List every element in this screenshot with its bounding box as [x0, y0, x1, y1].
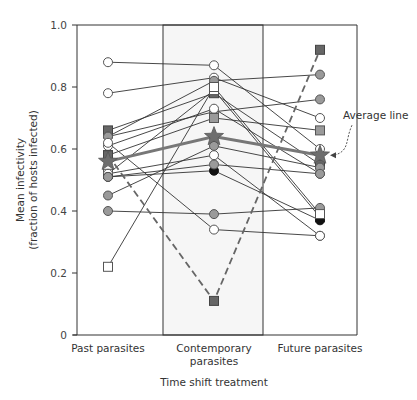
y-axis-title-line: Mean infectivity	[14, 138, 26, 222]
x-axis-category-labels: Past parasitesContemporaryparasitesFutur…	[71, 342, 362, 367]
grey-square-marker	[210, 114, 219, 123]
open-circle-marker	[316, 114, 325, 123]
grey-circle-marker	[316, 95, 325, 104]
y-tick-label: 0.8	[50, 81, 67, 93]
grey-circle-marker	[104, 172, 113, 181]
annotation-text: Average line	[343, 109, 408, 121]
grey-circle-marker	[316, 169, 325, 178]
annotation-arrowhead	[330, 152, 336, 158]
grey-circle-marker	[316, 70, 325, 79]
y-tick-label: 0	[60, 329, 67, 341]
x-axis-title: Time shift treatment	[159, 376, 268, 388]
grey-circle-marker	[210, 160, 219, 169]
y-axis-title-line: (fraction of hosts infected)	[27, 110, 39, 250]
chart: 00.20.40.60.81.0 Past parasitesContempor…	[0, 0, 417, 400]
x-category-label: Contemporary	[176, 342, 252, 354]
grey-circle-marker	[104, 207, 113, 216]
open-square-marker	[210, 83, 219, 92]
open-circle-marker	[104, 89, 113, 98]
y-tick-label: 0.2	[50, 267, 67, 279]
grey-circle-marker	[210, 210, 219, 219]
star-average-marker	[99, 151, 118, 169]
contemporary-highlight-panel	[163, 25, 263, 335]
y-tick-label: 0.6	[50, 143, 67, 155]
open-circle-marker	[210, 104, 219, 113]
open-circle-marker	[210, 225, 219, 234]
annotation-arrow	[334, 125, 352, 155]
grey-circle-marker	[104, 191, 113, 200]
dark-square-marker	[316, 45, 325, 54]
average-line-annotation: Average line	[330, 109, 408, 158]
contemporary-panel	[163, 25, 263, 335]
open-circle-marker	[210, 151, 219, 160]
x-category-label: parasites	[190, 355, 238, 367]
open-square-marker	[316, 210, 325, 219]
open-circle-marker	[104, 58, 113, 67]
y-tick-label: 0.4	[50, 205, 67, 217]
open-circle-marker	[210, 61, 219, 70]
open-circle-marker	[104, 138, 113, 147]
y-axis: 00.20.40.60.81.0	[50, 19, 77, 341]
dark-square-marker	[210, 296, 219, 305]
y-axis-title: Mean infectivity(fraction of hosts infec…	[14, 110, 39, 250]
x-category-label: Past parasites	[71, 342, 145, 354]
y-tick-label: 1.0	[50, 19, 67, 31]
open-circle-marker	[316, 231, 325, 240]
x-category-label: Future parasites	[277, 342, 362, 354]
grey-square-marker	[316, 126, 325, 135]
open-square-marker	[104, 262, 113, 271]
